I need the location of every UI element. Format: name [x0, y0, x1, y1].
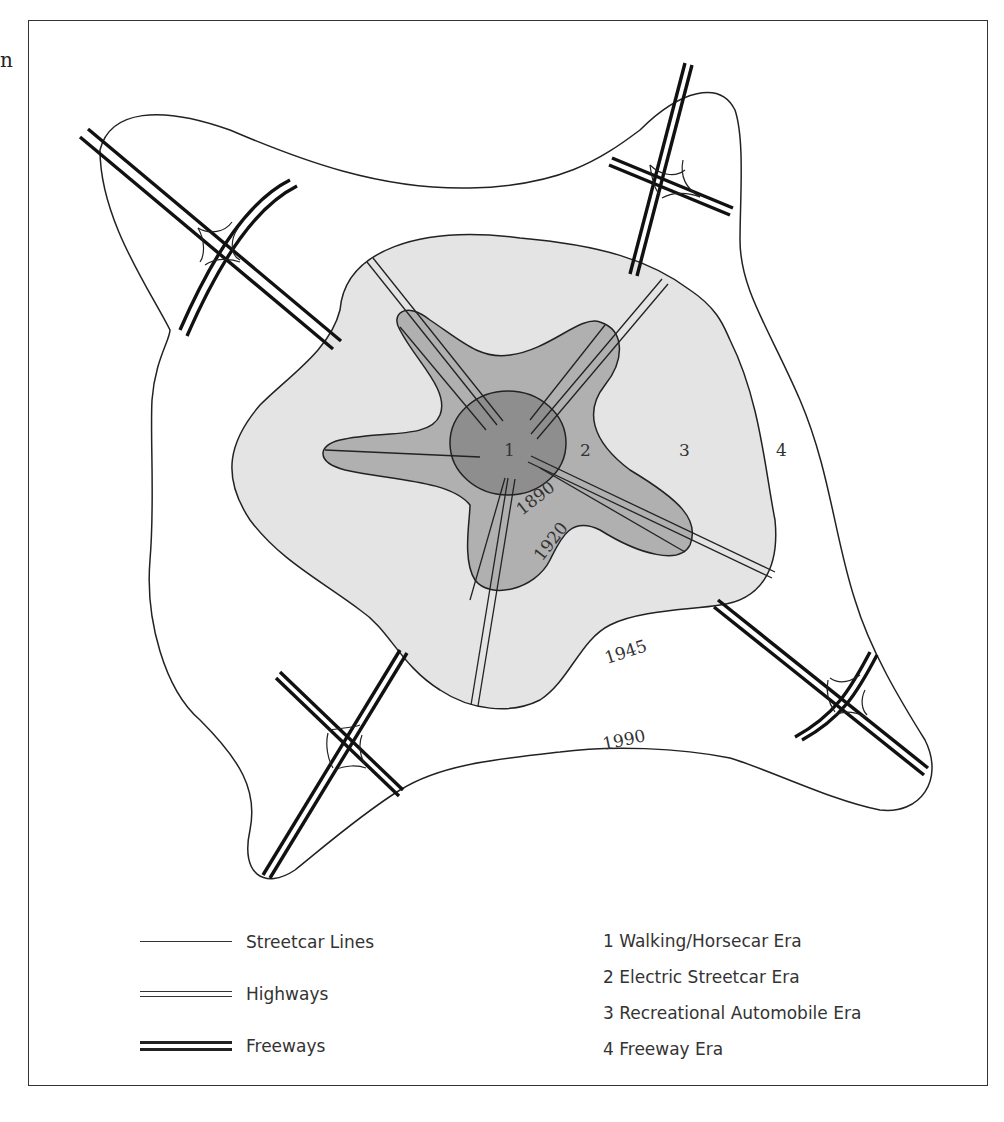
legend-eras: 1 Walking/Horsecar Era 2 Electric Street… — [603, 930, 861, 1074]
legend-line-types: Streetcar Lines Highways Freeways — [140, 925, 374, 1081]
highway-line-swatch-icon — [140, 988, 232, 1000]
legend-era-1: 1 Walking/Horsecar Era — [603, 930, 861, 966]
legend-era-3: 3 Recreational Automobile Era — [603, 1002, 861, 1038]
legend-era-4: 4 Freeway Era — [603, 1038, 861, 1074]
legend-item-streetcar: Streetcar Lines — [140, 925, 374, 958]
zone-label-3: 3 — [679, 440, 690, 460]
streetcar-line-swatch-icon — [140, 936, 232, 948]
legend-era-2: 2 Electric Streetcar Era — [603, 966, 861, 1002]
zone-label-4: 4 — [776, 440, 787, 460]
legend-item-freeway: Freeways — [140, 1029, 374, 1062]
zone-label-1: 1 — [504, 440, 515, 460]
legend-label-highway: Highways — [246, 984, 328, 1004]
legend-label-streetcar: Streetcar Lines — [246, 932, 374, 952]
legend-label-freeway: Freeways — [246, 1036, 325, 1056]
zone-label-2: 2 — [580, 440, 591, 460]
legend-item-highway: Highways — [140, 977, 374, 1010]
freeway-line-swatch-icon — [140, 1040, 232, 1052]
